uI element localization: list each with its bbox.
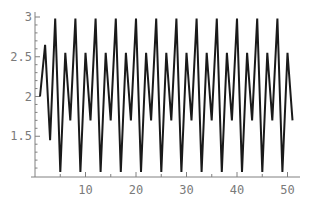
x-tick-label: 30 — [179, 183, 193, 197]
data-line — [40, 19, 293, 172]
x-tick-label: 50 — [280, 183, 294, 197]
y-tick-label: 3 — [25, 10, 32, 24]
x-tick-label: 20 — [129, 183, 143, 197]
y-tick-label: 1.5 — [10, 129, 32, 143]
y-tick-label: 2 — [25, 90, 32, 104]
x-tick-label: 10 — [78, 183, 92, 197]
y-tick-label: 2.5 — [10, 50, 32, 64]
line-chart: 10203040501.522.53 — [0, 0, 310, 204]
x-tick-label: 40 — [230, 183, 244, 197]
